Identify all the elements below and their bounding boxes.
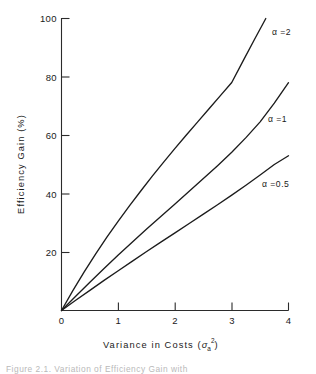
- curve-alpha-0-5: [62, 156, 289, 311]
- x-tick-label-0: 0: [59, 315, 65, 326]
- x-axis-title-sub: a: [207, 345, 211, 352]
- y-tick-label-40: 40: [46, 189, 57, 200]
- efficiency-gain-line-chart: 100 80 60 40 20 0 1 2 3 4 α: [0, 0, 316, 374]
- y-tick-label-80: 80: [46, 72, 57, 83]
- y-axis-title: Efficiency Gain (%): [16, 114, 26, 214]
- x-tick-label-4: 4: [286, 315, 292, 326]
- y-tick-label-100: 100: [40, 13, 57, 24]
- x-axis-title-text: Variance in Costs (: [103, 340, 202, 350]
- curve-alpha-1: [62, 83, 289, 311]
- figure-container: 100 80 60 40 20 0 1 2 3 4 α: [0, 0, 316, 374]
- series-label-alpha-1: α =1: [268, 114, 287, 124]
- y-tick-marks: [62, 19, 70, 253]
- x-tick-label-1: 1: [116, 315, 122, 326]
- x-axis-title-close: ): [214, 340, 217, 350]
- x-tick-labels: 0 1 2 3 4: [59, 315, 292, 326]
- x-tick-marks: [118, 303, 288, 311]
- series-label-alpha-2: α =2: [272, 27, 291, 37]
- series-label-alpha-0-5: α =0.5: [262, 179, 289, 189]
- y-tick-label-20: 20: [46, 247, 57, 258]
- data-curves: [62, 19, 289, 311]
- svg-text:Variance in Costs (σa2): Variance in Costs (σa2): [103, 337, 218, 351]
- x-axis-title: Variance in Costs (σa2): [103, 337, 218, 351]
- figure-caption: Figure 2.1. Variation of Efficiency Gain…: [6, 364, 188, 374]
- x-tick-label-2: 2: [172, 315, 178, 326]
- y-tick-label-60: 60: [46, 130, 57, 141]
- y-tick-labels: 100 80 60 40 20: [40, 13, 57, 258]
- x-tick-label-3: 3: [229, 315, 235, 326]
- axes-group: [61, 18, 289, 311]
- series-labels: α =2 α =1 α =0.5: [262, 27, 291, 189]
- curve-alpha-2: [62, 19, 266, 311]
